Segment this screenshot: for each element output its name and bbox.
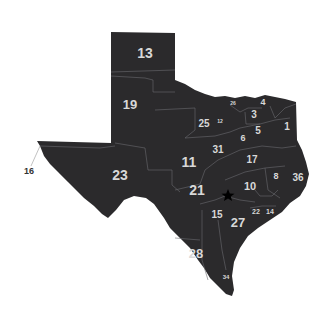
district-label-8: 8 (273, 171, 278, 181)
district-label-16: 16 (24, 166, 34, 176)
district-label-6: 6 (240, 133, 245, 143)
district-label-5: 5 (255, 125, 261, 136)
district-16-leader-line (31, 146, 40, 166)
district-label-21: 21 (189, 182, 205, 198)
district-label-11: 11 (182, 154, 197, 170)
district-label-10: 10 (244, 180, 256, 192)
district-label-15: 15 (211, 209, 223, 220)
district-label-17: 17 (246, 154, 258, 165)
district-callouts: 16 (24, 166, 34, 176)
district-label-3: 3 (251, 109, 257, 120)
district-label-23: 23 (112, 167, 128, 183)
district-label-26: 26 (230, 100, 236, 106)
texas-district-map: 1319251226435163117112383610212214152728… (0, 0, 327, 315)
texas-state-shape (37, 32, 309, 296)
district-label-36: 36 (292, 172, 304, 183)
district-label-22: 22 (252, 208, 260, 215)
district-label-31: 31 (212, 144, 224, 155)
district-label-19: 19 (123, 97, 137, 112)
district-label-4: 4 (260, 97, 265, 107)
district-label-34: 34 (223, 274, 230, 280)
district-label-28: 28 (189, 246, 203, 261)
district-label-1: 1 (284, 121, 290, 132)
district-label-14: 14 (266, 208, 274, 215)
district-label-13: 13 (137, 45, 153, 61)
district-label-27: 27 (231, 215, 245, 230)
district-label-12: 12 (217, 118, 223, 124)
district-label-25: 25 (198, 118, 210, 129)
